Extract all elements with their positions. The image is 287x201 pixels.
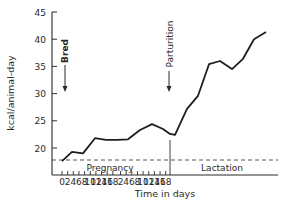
energy-intake-line: [62, 32, 266, 161]
energy-intake-chart: 202530354045 kcal/animal-day 02468101214…: [0, 0, 287, 201]
parturition-annotation: Parturition: [165, 21, 175, 92]
phase-label-pregnancy: Pregnancy: [86, 163, 134, 173]
parturition-label: Parturition: [165, 21, 175, 68]
bred-annotation: Bred: [60, 39, 70, 92]
y-tick-label: 45: [35, 8, 46, 18]
y-axis: 202530354045: [35, 8, 57, 176]
bred-label: Bred: [60, 39, 70, 63]
y-tick-label: 25: [35, 116, 46, 126]
y-tick-label: 35: [35, 62, 46, 72]
y-tick-label: 40: [35, 35, 47, 45]
x-axis-title: Time in days: [134, 188, 195, 199]
x-tick-label: 18: [160, 177, 172, 187]
y-axis-title: kcal/animal-day: [5, 55, 16, 131]
phase-label-lactation: Lactation: [201, 163, 243, 173]
y-tick-label: 20: [35, 144, 47, 154]
x-axis: 02468101214161824681012141618: [52, 171, 278, 187]
y-tick-label: 30: [35, 89, 47, 99]
